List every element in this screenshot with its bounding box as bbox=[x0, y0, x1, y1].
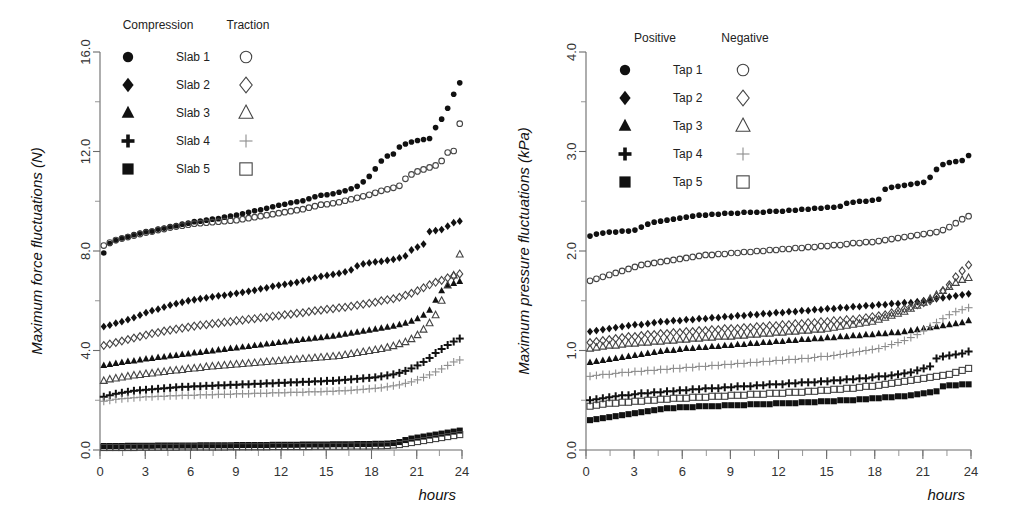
data-point-circle bbox=[427, 165, 433, 171]
data-point-square bbox=[850, 397, 856, 403]
data-point-diamond bbox=[215, 319, 221, 327]
data-point-triangle bbox=[263, 340, 270, 346]
data-point-square bbox=[869, 395, 875, 401]
data-point-plus bbox=[100, 397, 108, 405]
data-point-circle bbox=[767, 247, 773, 253]
data-point-circle bbox=[264, 205, 270, 211]
legend-row-slab-2[interactable]: Slab 2 bbox=[122, 77, 252, 93]
legend-row-tap-4[interactable]: Tap 4 bbox=[619, 147, 750, 161]
data-point-circle bbox=[690, 213, 696, 219]
data-point-triangle bbox=[408, 317, 415, 323]
data-point-square bbox=[715, 393, 721, 399]
legend-row-tap-3[interactable]: Tap 3 bbox=[619, 118, 750, 133]
data-point-circle bbox=[940, 162, 946, 168]
legend-row-slab-3[interactable]: Slab 3 bbox=[122, 105, 253, 120]
data-point-diamond bbox=[619, 91, 630, 105]
legend-row-tap-5[interactable]: Tap 5 bbox=[619, 175, 749, 189]
data-point-triangle bbox=[657, 348, 664, 354]
data-point-plus bbox=[377, 384, 385, 392]
data-point-triangle bbox=[122, 106, 135, 118]
data-point-triangle bbox=[689, 335, 696, 341]
data-point-diamond bbox=[215, 292, 221, 300]
legend-header-filled: Compression bbox=[123, 18, 194, 32]
data-point-diamond bbox=[372, 258, 378, 266]
data-point-diamond bbox=[276, 281, 282, 289]
data-point-diamond bbox=[722, 325, 728, 333]
data-point-diamond bbox=[203, 321, 209, 329]
data-point-diamond bbox=[143, 309, 149, 317]
data-point-circle bbox=[409, 139, 415, 145]
data-point-plus bbox=[830, 351, 838, 359]
data-point-square bbox=[792, 400, 798, 406]
data-point-diamond bbox=[408, 246, 414, 254]
data-point-circle bbox=[844, 241, 850, 247]
data-point-triangle bbox=[179, 351, 186, 357]
legend-row-slab-4[interactable]: Slab 4 bbox=[122, 134, 253, 148]
data-point-diamond bbox=[683, 328, 689, 336]
data-point-plus bbox=[727, 360, 735, 368]
data-point-triangle bbox=[715, 333, 722, 339]
data-point-triangle bbox=[651, 338, 658, 344]
data-point-triangle bbox=[312, 334, 319, 340]
data-point-circle bbox=[966, 213, 972, 219]
data-point-triangle bbox=[702, 344, 709, 350]
data-point-circle bbox=[863, 239, 869, 245]
x-tick-label: 15 bbox=[319, 464, 333, 479]
data-point-square bbox=[122, 163, 133, 174]
data-point-circle bbox=[613, 229, 619, 235]
legend-row-tap-1[interactable]: Tap 1 bbox=[620, 63, 749, 77]
data-point-triangle bbox=[191, 349, 198, 355]
data-point-triangle bbox=[348, 329, 355, 335]
data-point-square bbox=[754, 391, 760, 397]
x-tick-label: 3 bbox=[142, 464, 149, 479]
data-point-plus bbox=[383, 383, 391, 391]
data-point-circle bbox=[882, 187, 888, 193]
data-point-plus bbox=[586, 372, 594, 380]
legend-left: CompressionTractionSlab 1Slab 2Slab 3Sla… bbox=[122, 18, 270, 176]
y-axis-title: Maximum pressure fluctuations (kPa) bbox=[515, 127, 532, 375]
data-point-triangle bbox=[456, 251, 463, 257]
legend-row-slab-1[interactable]: Slab 1 bbox=[123, 50, 252, 64]
data-point-triangle bbox=[753, 340, 760, 346]
data-point-diamond bbox=[754, 323, 760, 331]
legend-row-tap-2[interactable]: Tap 2 bbox=[619, 90, 749, 106]
data-point-diamond bbox=[737, 90, 749, 106]
data-point-triangle bbox=[239, 105, 253, 118]
data-point-circle bbox=[312, 203, 318, 209]
data-point-circle bbox=[354, 195, 360, 201]
data-point-diamond bbox=[408, 289, 414, 297]
data-point-diamond bbox=[664, 318, 670, 326]
data-point-square bbox=[869, 383, 875, 389]
legend-row-slab-5[interactable]: Slab 5 bbox=[122, 162, 252, 176]
data-point-diamond bbox=[747, 311, 753, 319]
data-point-triangle bbox=[612, 355, 619, 361]
data-point-triangle bbox=[366, 326, 373, 332]
data-point-square bbox=[439, 431, 445, 437]
data-point-diamond bbox=[402, 252, 408, 260]
data-point-diamond bbox=[696, 327, 702, 335]
data-point-square bbox=[451, 429, 457, 435]
data-point-square bbox=[747, 401, 753, 407]
data-point-circle bbox=[664, 217, 670, 223]
data-point-circle bbox=[812, 244, 818, 250]
series-tap-1-positive bbox=[587, 153, 971, 239]
data-point-diamond bbox=[167, 301, 173, 309]
data-point-circle bbox=[902, 183, 908, 189]
data-point-circle bbox=[735, 250, 741, 256]
data-point-plus bbox=[888, 341, 896, 349]
data-point-square bbox=[735, 402, 741, 408]
data-point-triangle bbox=[408, 335, 415, 341]
chart-svg-left: 0.04.08.012.016.003691215182124Maximum f… bbox=[0, 0, 506, 522]
data-point-diamond bbox=[227, 318, 233, 326]
data-point-diamond bbox=[161, 303, 167, 311]
data-point-circle bbox=[348, 196, 354, 202]
data-point-diamond bbox=[824, 305, 830, 313]
legend-header-filled: Positive bbox=[634, 31, 676, 45]
data-point-square bbox=[837, 397, 843, 403]
data-point-circle bbox=[748, 249, 754, 255]
data-point-diamond bbox=[779, 309, 785, 317]
data-point-circle bbox=[264, 212, 270, 218]
data-point-diamond bbox=[336, 269, 342, 277]
data-point-plus bbox=[836, 350, 844, 358]
data-point-diamond bbox=[191, 322, 197, 330]
